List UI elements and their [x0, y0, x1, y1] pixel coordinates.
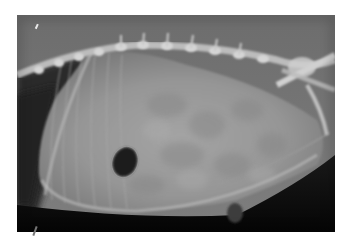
xray-canvas: [17, 15, 335, 232]
radiograph-image: Lateral abdominal X-ray showing enlarged…: [17, 15, 335, 232]
